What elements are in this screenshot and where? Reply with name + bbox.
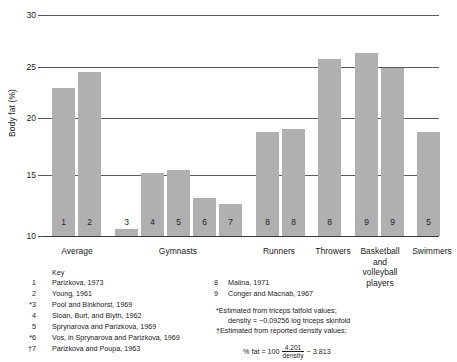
category-label-swimmers: Swimmers [404,246,457,257]
key-text: Parizkova, 1973 [52,277,104,288]
gridline-30 [43,15,439,16]
x-axis-baseline [43,236,439,237]
key-marker: *6 [20,332,36,343]
key-marker: †7 [20,343,36,354]
y-tick-label-15: 15 [14,171,36,180]
category-label-gymnasts: Gymnasts [146,246,210,257]
footnote-formula: % fat = 1004.201density− 3.813 [243,344,331,361]
key-text: Young, 1961 [52,288,92,299]
bar-label-8a: 8 [256,218,279,227]
formula-numerator: 4.201 [282,344,305,353]
key-marker: 1 [20,277,36,288]
bar-label-6: 6 [193,218,216,227]
key-text: Vos, in Sprynarova and Parizkova, 1969 [52,332,180,343]
category-label-average: Average [45,246,109,257]
footnote-line-3: †Estimated from reported density values; [216,326,347,336]
gridline-25 [43,67,439,68]
key-marker: 5 [20,321,36,332]
bar-label-3: 3 [115,218,138,227]
formula-denominator: density [282,352,305,360]
bar-9a[interactable] [355,53,378,236]
gridline-20 [43,118,439,119]
bar-2[interactable] [78,72,101,236]
bar-label-9a: 9 [355,218,378,227]
gridline-15 [43,175,439,176]
footnote-line-2: density = −0.09256 log triceps skinfold [228,316,350,326]
bar-label-5b: 5 [417,218,440,227]
bar-label-2: 2 [78,218,101,227]
key-text: Conger and Macnab, 1967 [228,288,313,299]
bar-label-1: 1 [52,218,75,227]
key-text: Parizkova and Poupa, 1963 [52,343,140,354]
bar-9b[interactable] [381,68,404,236]
bar-3[interactable] [115,229,138,236]
key-marker: 8 [208,277,218,288]
key-marker: 2 [20,288,36,299]
key-text: Sprynarova and Parizkova, 1969 [52,321,156,332]
bar-label-9b: 9 [381,218,404,227]
key-text: Sloan, Burt, and Blyth, 1962 [52,310,142,321]
bar-label-5: 5 [167,218,190,227]
key-marker: 9 [208,288,218,299]
bar-label-7: 7 [219,218,242,227]
formula-prefix: % fat = 100 [243,347,280,356]
bar-chart: Body fat (%) 30 25 20 15 10 1 2 [0,0,443,265]
key-text: Pool and Binkhorst, 1969 [52,299,132,310]
key-and-footnotes: Key 1 Parizkova, 1973 2 Young, 1961 *3 P… [0,268,443,362]
formula-fraction: 4.201density [282,344,305,361]
bar-label-4: 4 [141,218,164,227]
y-axis-label: Body fat (%) [7,68,17,158]
y-tick-label-20: 20 [14,114,36,123]
footnote-line-1: *Estimated from triceps fatfold values; [216,306,337,316]
bar-label-8c: 8 [318,218,341,227]
y-tick-label-10: 10 [14,232,36,241]
y-tick-label-25: 25 [14,63,36,72]
key-marker: *3 [20,299,36,310]
key-marker: 4 [20,310,36,321]
key-title: Key [52,268,64,277]
formula-suffix: − 3.813 [306,347,330,356]
key-text: Malina, 1971 [228,277,269,288]
bar-8c[interactable] [318,59,341,236]
bar-label-8b: 8 [282,218,305,227]
y-tick-label-30: 30 [14,11,36,20]
category-label-runners: Runners [249,246,309,257]
bar-1[interactable] [52,88,75,236]
